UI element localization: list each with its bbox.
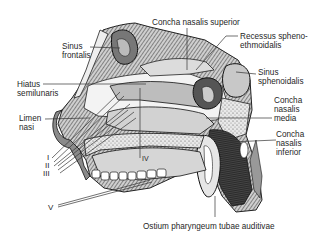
label-limen-nasi: Limen nasi bbox=[19, 114, 41, 132]
marker-iii: III bbox=[43, 170, 50, 178]
label-concha-media: Concha nasalis media bbox=[274, 96, 302, 124]
label-concha-superior: Concha nasalis superior bbox=[152, 18, 240, 27]
label-concha-inferior: Concha nasalis inferior bbox=[276, 130, 304, 158]
label-sinus-sphenoidalis: Sinus sphenoidalis bbox=[258, 68, 304, 86]
marker-iv: IV bbox=[142, 155, 149, 163]
label-sinus-frontalis: Sinus frontalis bbox=[62, 42, 91, 60]
marker-v: V bbox=[48, 204, 53, 212]
label-hiatus-semilunaris: Hiatus semilunaris bbox=[17, 80, 58, 98]
label-recessus-sphenoethmoidalis: Recessus spheno- ethmoidalis bbox=[240, 32, 308, 50]
label-ostium-pharyngeum: Ostium pharyngeum tubae auditivae bbox=[143, 222, 275, 231]
